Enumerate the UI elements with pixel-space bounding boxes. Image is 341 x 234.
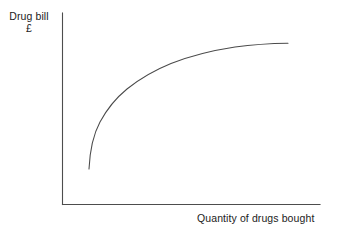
y-axis-label: Drug bill £ — [0, 10, 58, 34]
y-axis-label-currency-symbol: £ — [0, 22, 58, 34]
chart-canvas — [0, 0, 341, 234]
x-axis-label: Quantity of drugs bought — [197, 212, 314, 224]
y-axis-label-line-1: Drug bill — [0, 10, 58, 22]
economics-diagram: Drug bill £ Quantity of drugs bought — [0, 0, 341, 234]
drug-bill-curve — [89, 43, 288, 169]
